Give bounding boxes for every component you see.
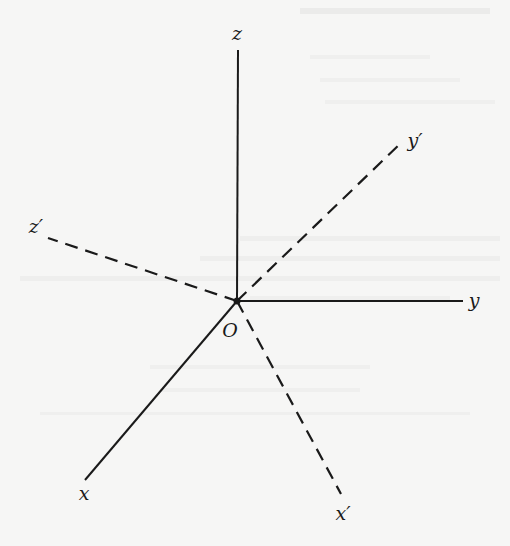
origin-point	[235, 299, 240, 304]
y-axis-label: y	[468, 289, 480, 311]
x-prime-axis	[237, 301, 341, 494]
bleed-through-texture	[20, 8, 500, 415]
coordinate-rotation-diagram: zyxz′y′x′O	[0, 0, 510, 546]
z-axis	[237, 50, 238, 301]
x-prime-axis-label: x′	[335, 502, 351, 524]
z-axis-label: z	[231, 22, 243, 44]
z-prime-axis-label: z′	[28, 215, 44, 237]
origin-label: O	[222, 319, 238, 341]
y-prime-axis-label: y′	[406, 129, 423, 151]
x-axis-label: x	[79, 482, 90, 504]
z-prime-axis	[48, 238, 237, 301]
